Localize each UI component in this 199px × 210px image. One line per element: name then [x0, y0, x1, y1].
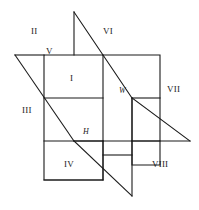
plane-label-h: H — [83, 128, 89, 136]
plane-label-w: W — [119, 87, 126, 95]
octant-label-ii: II — [31, 27, 37, 36]
octant-figure-canvas: II V VI I W VII III H IV VIII — [0, 0, 199, 210]
octant-label-iv: IV — [64, 160, 74, 169]
octant-label-viii: VIII — [152, 160, 168, 169]
octant-label-iii: III — [22, 106, 32, 115]
octant-label-vii: VII — [167, 85, 180, 94]
octant-label-i: I — [70, 74, 73, 83]
octant-label-vi: VI — [103, 27, 113, 36]
horizontal-plane-right-diagonal — [132, 98, 190, 141]
plane-label-v: V — [46, 47, 53, 56]
